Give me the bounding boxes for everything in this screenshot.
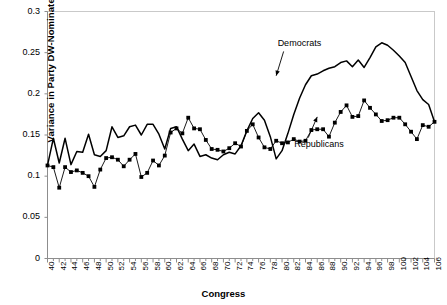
x-tick-label: 78 <box>269 246 278 270</box>
x-axis-title: Congress <box>0 288 447 299</box>
x-tick-label: 94 <box>363 246 372 270</box>
x-tick-label: 62 <box>176 246 185 270</box>
x-tick-label: 90 <box>340 246 349 270</box>
y-tick-label: 0.1 <box>6 170 40 180</box>
x-tick-label: 70 <box>222 246 231 270</box>
x-tick-label: 42 <box>58 246 67 270</box>
x-tick-label: 46 <box>82 246 91 270</box>
x-tick-label: 86 <box>316 246 325 270</box>
x-tick-label: 40 <box>47 246 56 270</box>
x-tick-label: 58 <box>152 246 161 270</box>
x-tick-label: 74 <box>246 246 255 270</box>
y-tick-label: 0.05 <box>6 211 40 221</box>
x-tick-label: 100 <box>398 246 407 270</box>
series-label-republicans: Republicans <box>294 139 344 149</box>
x-tick-label: 72 <box>234 246 243 270</box>
x-tick-label: 66 <box>199 246 208 270</box>
x-tick-label: 44 <box>70 246 79 270</box>
x-tick-label: 84 <box>305 246 314 270</box>
x-tick-label: 104 <box>422 246 431 270</box>
series-label-democrats: Democrats <box>278 38 322 48</box>
data-series-group <box>46 43 437 190</box>
x-tick-label: 52 <box>117 246 126 270</box>
y-tick-label: 0.2 <box>6 88 40 98</box>
annotation-arrows <box>276 51 318 137</box>
y-tick-label: 0.15 <box>6 129 40 139</box>
x-tick-label: 98 <box>387 246 396 270</box>
y-axis-title: Variance in Party DW-Nominate Score <box>45 0 56 166</box>
x-tick-label: 64 <box>187 246 196 270</box>
x-tick-label: 54 <box>129 246 138 270</box>
y-tick-label: 0.25 <box>6 47 40 57</box>
x-tick-label: 82 <box>293 246 302 270</box>
x-tick-label: 50 <box>105 246 114 270</box>
x-tick-label: 68 <box>211 246 220 270</box>
x-tick-label: 102 <box>410 246 419 270</box>
x-tick-label: 88 <box>328 246 337 270</box>
x-tick-label: 56 <box>140 246 149 270</box>
x-tick-label: 92 <box>351 246 360 270</box>
chart-figure: Variance in Party DW-Nominate Score Cong… <box>0 0 447 305</box>
x-tick-label: 48 <box>93 246 102 270</box>
x-tick-label: 60 <box>164 246 173 270</box>
x-tick-label: 96 <box>375 246 384 270</box>
x-tick-label: 80 <box>281 246 290 270</box>
y-tick-label: 0.3 <box>6 6 40 16</box>
x-tick-label: 76 <box>258 246 267 270</box>
y-tick-label: 0 <box>6 253 40 263</box>
x-tick-label: 106 <box>434 246 443 270</box>
plot-frame <box>48 12 435 259</box>
